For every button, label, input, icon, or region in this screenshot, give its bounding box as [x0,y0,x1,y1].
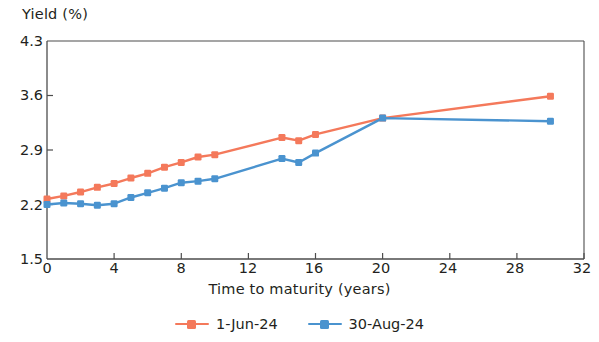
data-point-marker [144,170,151,177]
x-axis-title: Time to maturity (years) [0,281,599,297]
data-point-marker [60,199,67,206]
yield-curve-chart: Yield (%) 4.3 3.6 2.9 2.2 1.5 0 4 8 12 1… [0,0,599,342]
data-point-marker [295,159,302,166]
data-point-marker [94,184,101,191]
data-series-layer [44,93,554,209]
legend-swatch-icon [308,319,342,330]
y-axis-ticks [47,96,53,205]
series-2 [44,115,554,209]
data-point-marker [211,151,218,158]
data-point-marker [60,192,67,199]
series-line [47,96,550,199]
data-point-marker [94,202,101,209]
legend-label: 30-Aug-24 [349,316,424,332]
data-point-marker [379,115,386,122]
data-point-marker [312,131,319,138]
chart-legend: 1-Jun-24 30-Aug-24 [0,316,599,332]
data-point-marker [111,200,118,207]
data-point-marker [77,200,84,207]
legend-item-series-2[interactable]: 30-Aug-24 [308,316,424,332]
data-point-marker [127,175,134,182]
data-point-marker [178,179,185,186]
data-point-marker [211,175,218,182]
data-point-marker [111,180,118,187]
data-point-marker [144,189,151,196]
legend-swatch-icon [175,319,209,330]
data-point-marker [44,201,51,208]
data-point-marker [195,154,202,161]
data-point-marker [295,137,302,144]
data-point-marker [278,134,285,141]
legend-item-series-1[interactable]: 1-Jun-24 [175,316,278,332]
x-axis-ticks [114,253,584,259]
series-1 [44,93,554,203]
data-point-marker [77,189,84,196]
data-point-marker [547,118,554,125]
data-point-marker [195,178,202,185]
data-point-marker [161,185,168,192]
data-point-marker [278,155,285,162]
data-point-marker [127,194,134,201]
legend-label: 1-Jun-24 [216,316,278,332]
data-point-marker [178,159,185,166]
data-point-marker [547,93,554,100]
data-point-marker [161,164,168,171]
data-point-marker [312,150,319,157]
